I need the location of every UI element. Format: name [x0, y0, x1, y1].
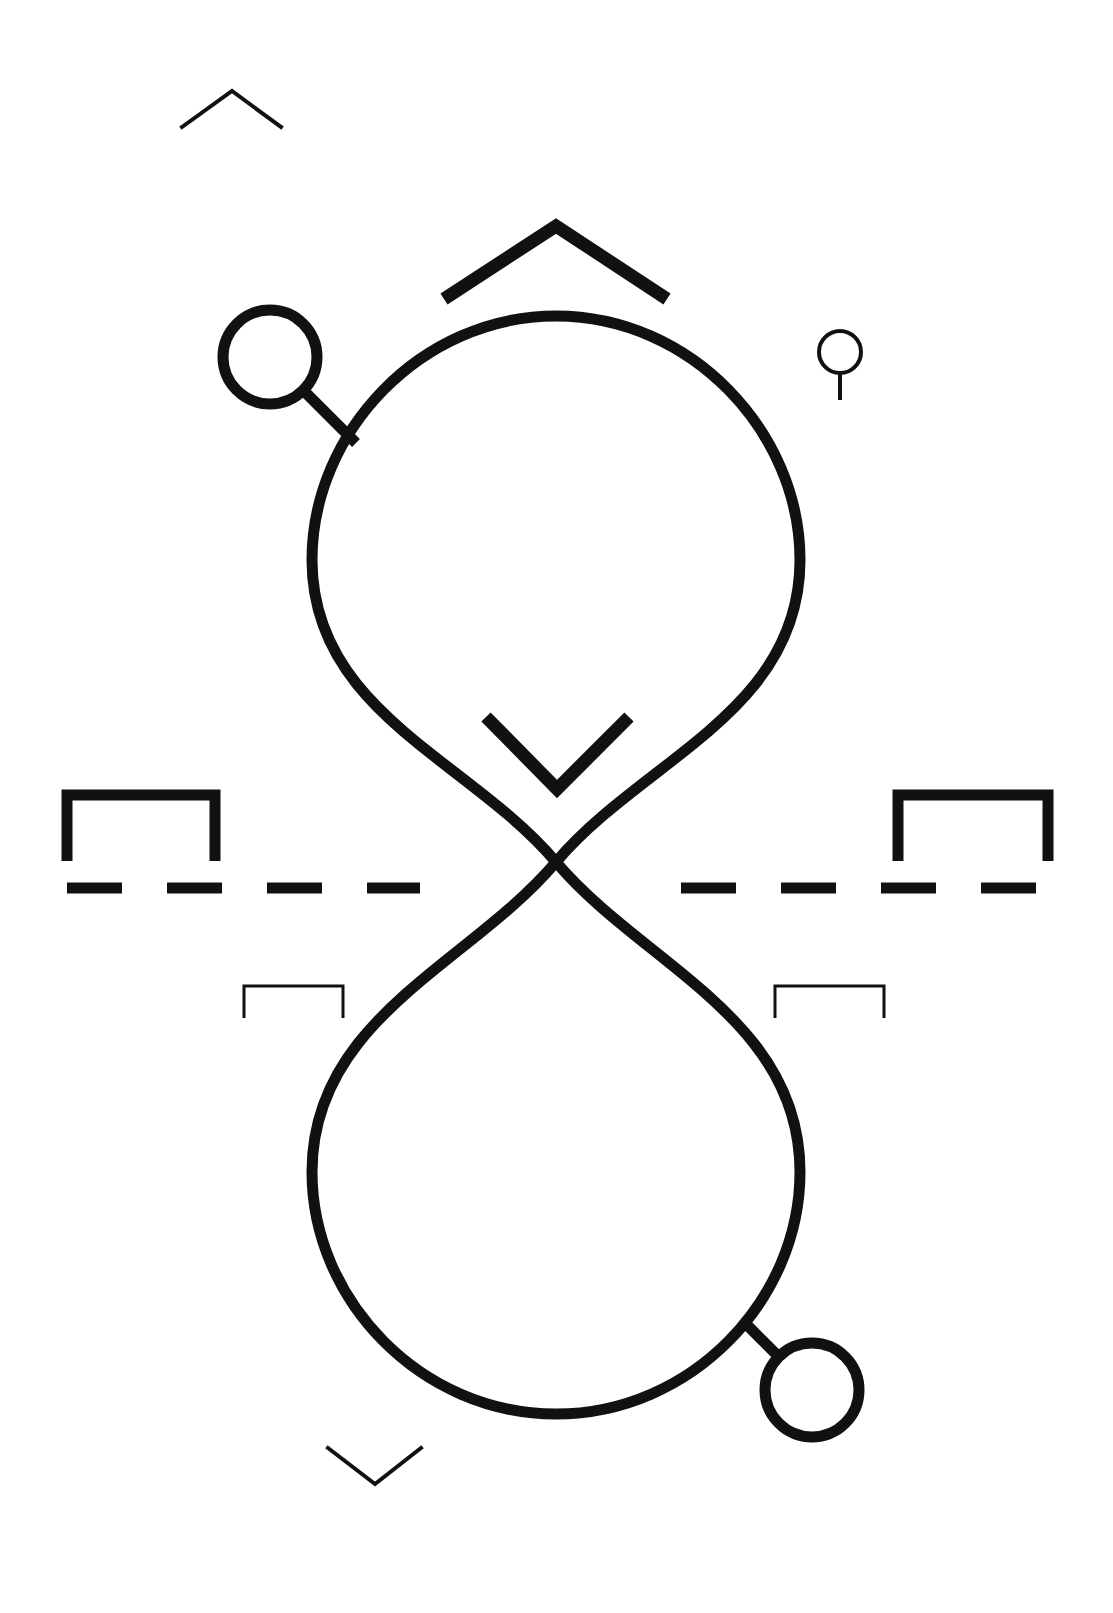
figure-canvas [0, 0, 1113, 1613]
canvas-background [0, 0, 1113, 1613]
figure-svg [0, 0, 1113, 1613]
